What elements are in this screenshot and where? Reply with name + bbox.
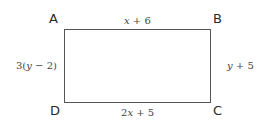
side-ad-constant: − 2) [32,60,57,71]
vertex-label-d: D [50,104,60,117]
rectangle-abcd [64,29,211,103]
side-label-ad: 3(y − 2) [16,61,57,71]
vertex-label-b: B [213,12,222,25]
vertex-label-a: A [49,12,58,25]
side-bc-constant: + 5 [233,60,254,71]
side-ab-constant: + 6 [130,15,151,26]
side-dc-constant: + 5 [133,107,154,118]
side-label-bc: y + 5 [227,61,254,71]
vertex-label-c: C [213,104,222,117]
side-ad-coefficient: 3( [16,60,26,71]
side-label-ab: x + 6 [124,16,151,26]
side-label-dc: 2x + 5 [121,108,154,118]
